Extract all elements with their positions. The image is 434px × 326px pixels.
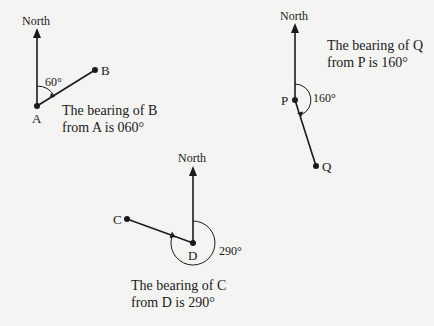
caption-line-2: from D is 290° <box>131 295 215 310</box>
caption-line-1: The bearing of C <box>131 278 226 293</box>
point-c-label: C <box>113 212 122 227</box>
point-p <box>292 97 298 103</box>
caption-line-1: The bearing of B <box>62 103 157 118</box>
caption-line-2: from A is 060° <box>62 120 144 135</box>
north-label: North <box>178 151 206 165</box>
point-b <box>92 67 98 73</box>
point-b-label: B <box>101 63 110 78</box>
angle-label: 290° <box>219 244 242 258</box>
caption-line-1: The bearing of Q <box>327 38 423 53</box>
bearings-diagram: North A B 60° The bearing of B from A is… <box>0 0 434 326</box>
north-arrow-icon <box>33 28 41 106</box>
caption-line-2: from P is 160° <box>327 55 408 70</box>
point-d <box>190 240 196 246</box>
point-a-label: A <box>32 111 42 126</box>
angle-label: 60° <box>45 75 62 89</box>
diagram-bearing-a-to-b: North A B 60° The bearing of B from A is… <box>22 14 157 135</box>
diagram-bearing-p-to-q: North P Q 160° The bearing of Q from P i… <box>280 9 423 174</box>
bearing-line <box>295 100 316 166</box>
angle-label: 160° <box>313 91 336 105</box>
north-label: North <box>280 9 308 23</box>
bearing-line <box>127 219 193 243</box>
point-c <box>124 216 130 222</box>
point-d-label: D <box>188 248 197 263</box>
point-a <box>34 103 40 109</box>
north-arrow-icon <box>291 23 299 100</box>
north-arrow-icon <box>189 166 197 243</box>
north-label: North <box>22 14 50 28</box>
diagram-bearing-d-to-c: North D C 290° The bearing of C from D i… <box>113 151 242 310</box>
point-q-label: Q <box>322 159 332 174</box>
point-q <box>313 163 319 169</box>
point-p-label: P <box>281 93 288 108</box>
